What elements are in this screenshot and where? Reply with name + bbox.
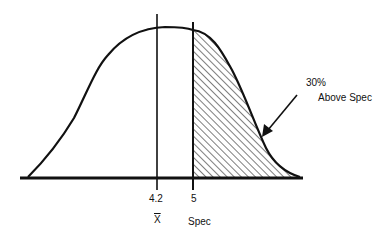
spec-label: Spec <box>188 216 211 227</box>
arrow-icon <box>262 95 297 137</box>
spec-value-label: 5 <box>191 193 197 204</box>
distribution-diagram <box>0 0 386 242</box>
percent-label: 30% <box>306 77 326 88</box>
mean-value-label: 4.2 <box>149 193 163 204</box>
mean-symbol-label: X <box>154 214 161 225</box>
above-spec-label: Above Spec <box>318 92 372 103</box>
